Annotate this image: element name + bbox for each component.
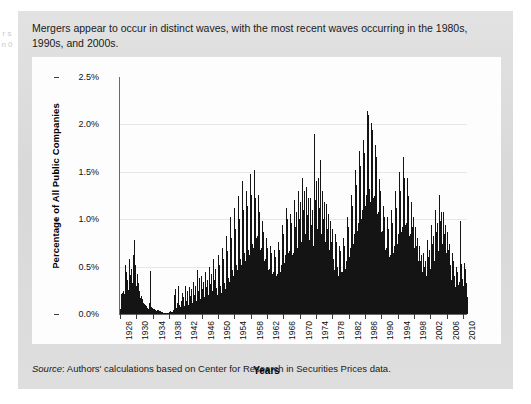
x-tick-mark bbox=[202, 314, 203, 319]
x-tick-label: 2010 bbox=[467, 321, 477, 340]
x-tick-label: 1998 bbox=[418, 321, 428, 340]
x-tick-mark bbox=[300, 314, 301, 319]
x-tick-mark bbox=[349, 314, 350, 319]
x-tick-mark bbox=[316, 314, 317, 319]
source-label: Source bbox=[32, 363, 62, 374]
x-tick-label: 1970 bbox=[304, 321, 314, 340]
x-tick-label: 2006 bbox=[451, 321, 461, 340]
y-tick-label: 1.0% bbox=[59, 214, 99, 224]
figure-caption: Mergers appear to occur in distinct wave… bbox=[32, 21, 494, 51]
x-tick-mark bbox=[447, 314, 448, 319]
x-tick-mark bbox=[398, 314, 399, 319]
x-tick-label: 1938 bbox=[173, 321, 183, 340]
x-tick-label: 1978 bbox=[336, 321, 346, 340]
y-axis-ticks: 0.0%0.5%1.0%1.5%2.0%2.5% bbox=[59, 57, 99, 344]
x-tick-label: 2002 bbox=[434, 321, 444, 340]
x-tick-mark bbox=[332, 314, 333, 319]
x-tick-mark bbox=[251, 314, 252, 319]
bar-series bbox=[120, 77, 467, 314]
x-tick-label: 1942 bbox=[189, 321, 199, 340]
y-axis-line bbox=[119, 77, 120, 314]
y-tick-mark bbox=[54, 77, 59, 78]
chart: Percentage of All Public Companies 0.0%0… bbox=[32, 57, 501, 344]
source-note: Source: Authors' calculations based on C… bbox=[32, 363, 494, 374]
x-tick-label: 1994 bbox=[402, 321, 412, 340]
x-tick-label: 1982 bbox=[353, 321, 363, 340]
x-tick-mark bbox=[463, 314, 464, 319]
y-tick-mark bbox=[54, 219, 59, 220]
y-tick-mark bbox=[54, 172, 59, 173]
x-tick-label: 1990 bbox=[385, 321, 395, 340]
figure-panel: Mergers appear to occur in distinct wave… bbox=[18, 11, 513, 389]
figure-root: r s n 0 Mergers appear to occur in disti… bbox=[0, 0, 531, 404]
x-tick-mark bbox=[234, 314, 235, 319]
x-tick-label: 1926 bbox=[124, 321, 134, 340]
y-tick-label: 2.0% bbox=[59, 119, 99, 129]
x-tick-label: 1966 bbox=[287, 321, 297, 340]
x-tick-label: 1950 bbox=[222, 321, 232, 340]
x-tick-mark bbox=[136, 314, 137, 319]
x-tick-label: 1986 bbox=[369, 321, 379, 340]
x-tick-mark bbox=[365, 314, 366, 319]
x-tick-mark bbox=[430, 314, 431, 319]
x-tick-mark bbox=[414, 314, 415, 319]
y-tick-mark bbox=[54, 267, 59, 268]
x-tick-label: 1930 bbox=[140, 321, 150, 340]
x-tick-mark bbox=[153, 314, 154, 319]
x-tick-mark bbox=[381, 314, 382, 319]
y-tick-mark bbox=[54, 314, 59, 315]
x-tick-mark bbox=[283, 314, 284, 319]
x-tick-label: 1974 bbox=[320, 321, 330, 340]
x-tick-mark bbox=[218, 314, 219, 319]
x-tick-label: 1946 bbox=[206, 321, 216, 340]
source-text: : Authors' calculations based on Center … bbox=[62, 363, 391, 374]
page-margin-bleed: r s n 0 bbox=[1, 28, 13, 50]
x-tick-label: 1954 bbox=[238, 321, 248, 340]
y-tick-label: 2.5% bbox=[59, 72, 99, 82]
y-tick-label: 1.5% bbox=[59, 167, 99, 177]
y-tick-label: 0.0% bbox=[59, 309, 99, 319]
x-tick-mark bbox=[267, 314, 268, 319]
x-tick-label: 1934 bbox=[157, 321, 167, 340]
x-tick-mark bbox=[185, 314, 186, 319]
plot-area bbox=[120, 77, 467, 314]
x-tick-mark bbox=[169, 314, 170, 319]
plot-card: Percentage of All Public Companies 0.0%0… bbox=[32, 57, 501, 344]
x-tick-label: 1958 bbox=[255, 321, 265, 340]
y-tick-label: 0.5% bbox=[59, 262, 99, 272]
x-tick-label: 1962 bbox=[271, 321, 281, 340]
x-tick-mark bbox=[120, 314, 121, 319]
y-tick-mark bbox=[54, 124, 59, 125]
